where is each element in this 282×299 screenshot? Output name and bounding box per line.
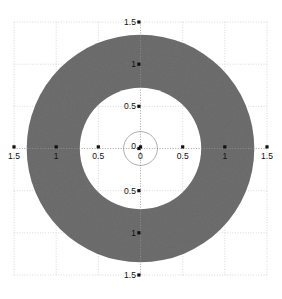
x-tick-label-1: 1 [222,152,227,161]
y-tick-label-1-5: 1.5 [124,18,136,27]
plot-canvas [0,0,282,299]
x-tick-label-neg-1-5: 1.5 [8,152,20,161]
x-tick-label-0: 0 [138,152,143,161]
x-tick-label-neg-1: 1 [54,152,59,161]
x-tick-label-1-5: 1.5 [261,152,273,161]
y-tick-label-neg-1-5: 1.5 [124,271,136,280]
x-tick-label-0-5: 0.5 [177,152,189,161]
y-tick-label-0: 0 [131,142,136,151]
y-tick-label-neg-1: 1 [131,229,136,238]
annulus-plot-figure: 1.5 1 0.5 0 0.5 1 1.5 1.5 1 0.5 0 0.5 1 … [0,0,282,299]
y-tick-label-neg-0-5: 0.5 [124,186,136,195]
y-tick-label-1: 1 [131,60,136,69]
y-tick-label-0-5: 0.5 [124,102,136,111]
x-tick-label-neg-0-5: 0.5 [92,152,104,161]
